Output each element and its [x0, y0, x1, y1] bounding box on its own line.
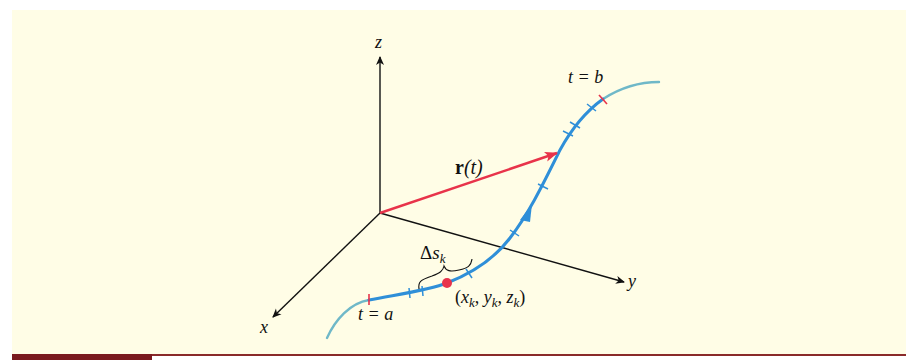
point-x: x [461, 287, 469, 307]
t-start-label: t = a [358, 305, 393, 323]
z-axis-label: z [375, 33, 382, 51]
partition-ticks [409, 104, 596, 298]
footer-accent-bar [12, 354, 152, 360]
vector-label-symbol: r [455, 156, 464, 178]
point-close: ) [519, 287, 525, 307]
axes [273, 57, 624, 317]
curve-extension-after [603, 82, 659, 99]
delta-var: s [432, 242, 439, 263]
y-axis-label: y [628, 272, 636, 290]
delta-s-label: Δsk [420, 243, 445, 265]
vector-label: r(t) [455, 157, 483, 177]
point-sep-2: , [498, 287, 507, 307]
curve-c [369, 99, 603, 300]
vector-label-arg: (t) [464, 156, 483, 178]
point-sep-1: , [475, 287, 484, 307]
sample-point [442, 278, 452, 288]
point-y: y [484, 287, 492, 307]
x-axis-label: x [260, 318, 268, 336]
delta-sub: k [440, 251, 446, 266]
curve-direction-arrow-icon [520, 204, 532, 222]
point-z: z [507, 287, 514, 307]
delta-symbol: Δ [420, 242, 432, 263]
sample-point-label: (xk, yk, zk) [455, 288, 525, 309]
t-end-label: t = b [568, 68, 603, 86]
